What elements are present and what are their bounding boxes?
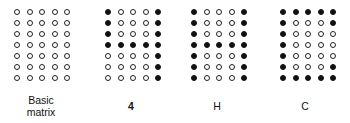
empty-dot [27,64,33,70]
empty-dot [293,42,299,48]
filled-dot [191,53,197,59]
empty-dot [293,64,299,70]
filled-dot [191,20,197,26]
filled-dot [241,53,247,59]
filled-dot [241,20,247,26]
empty-dot [14,75,20,81]
filled-dot [155,75,161,81]
empty-dot [216,75,222,81]
empty-dot [118,75,124,81]
filled-dot [155,9,161,15]
filled-dot [118,42,124,48]
empty-dot [216,64,222,70]
filled-dot [318,75,324,81]
empty-dot [216,31,222,37]
empty-dot [229,64,235,70]
empty-dot [105,75,111,81]
empty-dot [64,31,70,37]
empty-dot [143,75,149,81]
filled-dot [216,42,222,48]
filled-dot [155,20,161,26]
filled-dot [330,64,336,70]
filled-dot [318,9,324,15]
empty-dot [204,9,210,15]
filled-dot [241,64,247,70]
filled-dot [241,42,247,48]
empty-dot [293,53,299,59]
filled-dot [155,53,161,59]
empty-dot [118,53,124,59]
label-H: H [182,100,252,112]
empty-dot [216,20,222,26]
empty-dot [118,64,124,70]
filled-dot [280,75,286,81]
filled-dot [191,75,197,81]
empty-dot [39,9,45,15]
empty-dot [318,42,324,48]
empty-dot [293,31,299,37]
filled-dot [241,31,247,37]
empty-dot [39,20,45,26]
empty-dot [318,31,324,37]
empty-dot [143,9,149,15]
empty-dot [64,64,70,70]
empty-dot [229,75,235,81]
empty-dot [130,75,136,81]
empty-dot [143,31,149,37]
filled-dot [305,75,311,81]
filled-dot [155,64,161,70]
filled-dot [280,42,286,48]
empty-dot [39,75,45,81]
filled-dot [330,75,336,81]
filled-dot [143,42,149,48]
filled-dot [330,9,336,15]
empty-dot [204,64,210,70]
empty-dot [52,64,58,70]
empty-dot [14,53,20,59]
empty-dot [64,9,70,15]
empty-dot [64,75,70,81]
empty-dot [305,64,311,70]
empty-dot [143,64,149,70]
empty-dot [118,20,124,26]
empty-dot [216,9,222,15]
filled-dot [105,20,111,26]
empty-dot [27,53,33,59]
empty-dot [130,9,136,15]
empty-dot [318,53,324,59]
filled-dot [241,75,247,81]
empty-dot [27,9,33,15]
empty-dot [27,42,33,48]
label-basic-matrix: Basic matrix [6,94,76,118]
empty-dot [293,20,299,26]
empty-dot [118,9,124,15]
empty-dot [118,31,124,37]
dot-grid [277,7,340,84]
empty-dot [14,20,20,26]
empty-dot [52,53,58,59]
filled-dot [305,9,311,15]
empty-dot [27,31,33,37]
filled-dot [191,9,197,15]
empty-dot [27,20,33,26]
filled-dot [191,31,197,37]
empty-dot [64,20,70,26]
filled-dot [280,64,286,70]
matrix-H [188,7,251,84]
empty-dot [14,31,20,37]
empty-dot [52,75,58,81]
empty-dot [105,53,111,59]
empty-dot [39,42,45,48]
empty-dot [39,53,45,59]
empty-dot [130,31,136,37]
empty-dot [130,53,136,59]
filled-dot [280,9,286,15]
empty-dot [52,42,58,48]
empty-dot [229,20,235,26]
filled-dot [155,42,161,48]
filled-dot [280,20,286,26]
matrix-basic [11,7,74,84]
filled-dot [191,42,197,48]
empty-dot [330,42,336,48]
filled-dot [280,53,286,59]
